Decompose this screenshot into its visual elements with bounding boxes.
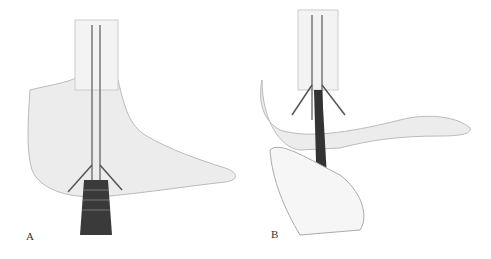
figure-illustration (0, 0, 491, 259)
panel-label-b: B (271, 228, 278, 240)
panel-label-a: A (26, 230, 34, 242)
panel-a-foot (28, 20, 236, 235)
panel-b-foot (261, 10, 471, 235)
